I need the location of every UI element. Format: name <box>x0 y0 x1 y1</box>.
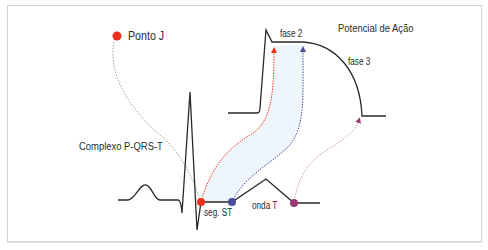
phase3-label: fase 3 <box>348 56 370 67</box>
st-phase2-shaded-band <box>201 45 303 202</box>
t-wave-label: onda T <box>252 200 277 211</box>
st-segment-label: seg. ST <box>204 207 232 218</box>
action-potential-curve <box>228 30 386 116</box>
ponto-j-legend-dot <box>113 32 122 41</box>
diagram-canvas <box>0 0 488 250</box>
phase2-label: fase 2 <box>280 28 302 39</box>
ponto-j-connector <box>113 42 200 200</box>
action-potential-title: Potencial de Ação <box>338 22 414 34</box>
t-wave-end-dot <box>290 199 298 207</box>
ecg-complex-label: Complexo P-QRS-T <box>79 140 163 152</box>
ponto-j-label: Ponto J <box>128 28 164 43</box>
st-end-dot <box>228 198 236 206</box>
st-start-dot <box>197 198 205 206</box>
purple-mapping-curve <box>294 120 359 203</box>
